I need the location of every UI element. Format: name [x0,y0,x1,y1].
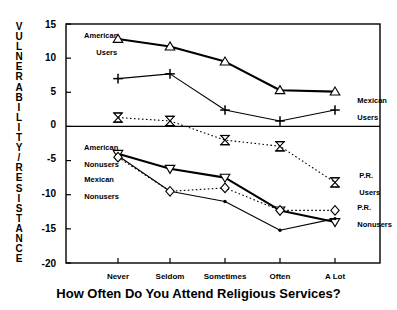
series-american-users [113,34,340,95]
series-line [118,118,335,183]
chart-plot-area [0,0,397,310]
data-point-marker [220,174,230,182]
series-line [118,74,335,121]
chart-figure: VULNERABILITY/RESISTANCE 15 10 5 0 -5 -1… [0,0,397,310]
data-point-marker [333,217,336,220]
data-point-marker [166,187,174,197]
data-point-marker [113,34,123,42]
data-point-marker [331,206,339,216]
series-mexican-users [113,69,340,126]
series-line [118,156,335,230]
data-point-marker [276,142,284,151]
data-point-marker [221,183,229,193]
data-point-marker [278,229,281,232]
series-mexican-nonusers [116,154,336,232]
data-point-marker [223,200,226,203]
data-point-marker [114,113,122,122]
data-point-marker [331,178,339,187]
